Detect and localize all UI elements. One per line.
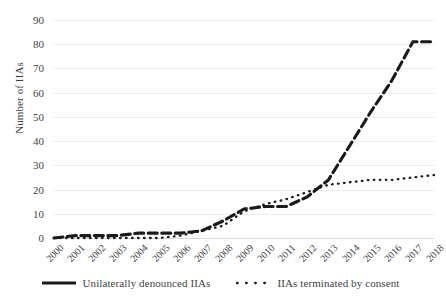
dashed-line-swatch bbox=[42, 278, 76, 288]
series-line bbox=[54, 175, 434, 238]
legend-item[interactable]: Unilaterally denounced IIAs bbox=[42, 277, 211, 289]
x-tick-label: 2013 bbox=[318, 242, 340, 264]
x-tick-label: 2000 bbox=[44, 242, 66, 264]
y-tick-label: 50 bbox=[0, 111, 44, 123]
x-tick-label: 2015 bbox=[361, 242, 383, 264]
y-tick-label: 30 bbox=[0, 159, 44, 171]
y-tick-label: 40 bbox=[0, 135, 44, 147]
chart-legend: Unilaterally denounced IIAsIIAs terminat… bbox=[0, 277, 441, 289]
legend-item[interactable]: IIAs terminated by consent bbox=[236, 277, 399, 289]
y-tick-label: 70 bbox=[0, 62, 44, 74]
x-tick-label: 2017 bbox=[403, 242, 425, 264]
x-tick-label: 2011 bbox=[276, 242, 298, 264]
series-paths bbox=[54, 20, 434, 238]
x-tick-label: 2001 bbox=[65, 242, 87, 264]
x-tick-label: 2003 bbox=[107, 242, 129, 264]
x-tick-label: 2016 bbox=[382, 242, 404, 264]
y-tick-label: 0 bbox=[0, 232, 44, 244]
dotted-line-swatch bbox=[236, 278, 270, 288]
x-tick-label: 2012 bbox=[297, 242, 319, 264]
y-tick-label: 60 bbox=[0, 87, 44, 99]
y-tick-label: 90 bbox=[0, 14, 44, 26]
x-tick-label: 2010 bbox=[255, 242, 277, 264]
x-axis-line bbox=[54, 238, 434, 239]
x-tick-label: 2008 bbox=[213, 242, 235, 264]
y-tick-label: 20 bbox=[0, 184, 44, 196]
x-tick-label: 2004 bbox=[128, 242, 150, 264]
y-axis-tick-labels: 0102030405060708090 bbox=[0, 20, 48, 238]
y-tick-label: 10 bbox=[0, 208, 44, 220]
x-tick-label: 2007 bbox=[192, 242, 214, 264]
x-tick-label: 2014 bbox=[339, 242, 361, 264]
legend-label: IIAs terminated by consent bbox=[277, 277, 399, 289]
series-line bbox=[54, 42, 434, 238]
legend-label: Unilaterally denounced IIAs bbox=[83, 277, 211, 289]
x-tick-label: 2002 bbox=[86, 242, 108, 264]
x-tick-label: 2006 bbox=[171, 242, 193, 264]
x-tick-label: 2009 bbox=[234, 242, 256, 264]
x-axis-tick-labels: 2000200120022003200420052006200720082009… bbox=[54, 240, 434, 280]
x-tick-label: 2005 bbox=[149, 242, 171, 264]
plot-area bbox=[54, 20, 434, 238]
y-tick-label: 80 bbox=[0, 38, 44, 50]
x-tick-label: 2018 bbox=[424, 242, 446, 264]
